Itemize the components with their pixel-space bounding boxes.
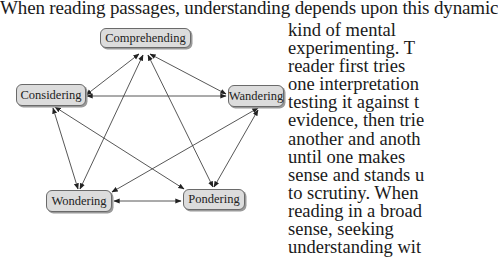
node-wondering: Wondering	[46, 190, 112, 212]
edge-comprehending-considering	[86, 54, 139, 95]
edge-wandering-wondering	[112, 108, 258, 192]
edge-comprehending-wandering	[150, 54, 226, 94]
text-line: understanding wit	[288, 238, 424, 256]
node-considering: Considering	[16, 84, 86, 106]
edge-comprehending-pondering	[148, 55, 213, 187]
node-pondering: Pondering	[183, 189, 245, 210]
node-wandering: Wandering	[228, 85, 284, 107]
node-comprehending: Comprehending	[100, 28, 191, 48]
edge-considering-wondering	[53, 108, 78, 189]
edge-wandering-pondering	[214, 110, 258, 187]
